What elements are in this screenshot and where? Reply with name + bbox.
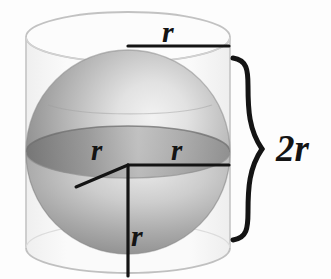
equator-left-radius-label: r (91, 134, 103, 166)
height-brace-label: 2r (275, 128, 310, 169)
brace-upper-arm (233, 58, 262, 149)
equator-right-radius-label: r (171, 134, 183, 166)
height-brace (233, 58, 262, 240)
vertical-radius-label: r (131, 219, 143, 252)
sphere-in-cylinder-diagram: r r r r 2r (0, 0, 331, 279)
top-radius-label: r (162, 15, 174, 48)
brace-lower-arm (233, 149, 262, 240)
geometry-figure: r r r r 2r (0, 0, 331, 279)
